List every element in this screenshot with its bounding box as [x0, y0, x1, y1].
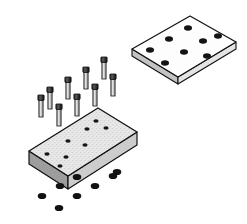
upper-plate-hole: [161, 60, 169, 65]
lower-plate-hole: [63, 155, 68, 159]
upper-plate-hole: [184, 25, 192, 30]
nut: [38, 193, 47, 199]
screw: [74, 94, 80, 116]
lower-plate-hole: [65, 139, 70, 143]
screw: [110, 74, 116, 96]
lower-plate-hole: [93, 119, 98, 123]
screw: [38, 95, 44, 117]
screw: [47, 87, 53, 109]
screw: [101, 57, 107, 79]
upper-plate-hole: [180, 49, 188, 54]
nut: [91, 183, 100, 189]
nut: [55, 205, 64, 211]
screw: [83, 67, 89, 89]
screw: [65, 77, 71, 99]
technical-drawing-canvas: [0, 0, 247, 224]
nut: [73, 193, 82, 199]
lower-plate-hole: [44, 152, 49, 156]
lower-plate-hole: [82, 143, 87, 147]
screw: [56, 104, 62, 126]
upper-plate-hole: [165, 36, 173, 41]
upper-plate-hole: [214, 33, 222, 38]
upper-plate-hole: [146, 47, 154, 52]
screw: [92, 84, 98, 106]
exploded-assembly-illustration: Exploded view of two bolted plates with …: [0, 0, 247, 224]
lower-plate-hole: [103, 126, 108, 130]
nut: [56, 183, 65, 189]
lower-plate-hole: [84, 127, 89, 131]
nut: [73, 174, 82, 180]
upper-plate-hole: [199, 38, 207, 43]
upper-plate-hole: [203, 53, 211, 58]
nut: [109, 173, 118, 179]
lower-plate-hole: [57, 164, 62, 168]
